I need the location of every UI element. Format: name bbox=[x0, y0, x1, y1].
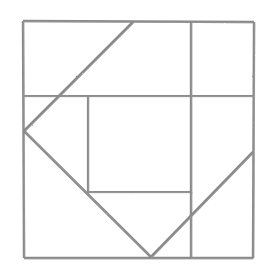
paper-background bbox=[0, 0, 266, 273]
drawing-canvas bbox=[0, 0, 266, 273]
geometric-figure bbox=[0, 0, 266, 273]
